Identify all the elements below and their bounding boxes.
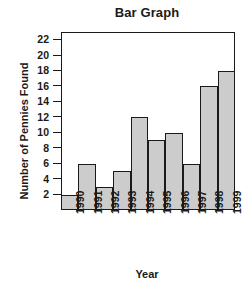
y-tick-label: 16: [19, 81, 49, 91]
y-tick-label: 18: [19, 65, 49, 75]
y-tick-label: 22: [19, 34, 49, 44]
x-tick-label-1996: 1996: [180, 191, 191, 214]
x-tick-label-1998: 1998: [214, 191, 225, 214]
y-tick-label: 6: [19, 158, 49, 168]
y-tick-label: 20: [19, 50, 49, 60]
x-tick-label-1994: 1994: [145, 191, 156, 214]
chart-title: Bar Graph: [62, 5, 232, 21]
y-tick-label: 10: [19, 127, 49, 137]
y-tick-label: 2: [19, 189, 49, 199]
bar-chart: Bar Graph Number of Pennies Found 246810…: [0, 0, 246, 300]
x-tick-label-1990: 1990: [75, 191, 86, 214]
y-tick-label: 8: [19, 143, 49, 153]
x-tick-label-1993: 1993: [127, 191, 138, 214]
bar-1999: [218, 71, 235, 210]
x-tick-label-1999: 1999: [232, 191, 243, 214]
x-tick-label-1997: 1997: [197, 191, 208, 214]
y-tick-label: 14: [19, 96, 49, 106]
x-axis-title: Year: [62, 268, 232, 280]
y-tick-label: 4: [19, 174, 49, 184]
y-tick-label: 12: [19, 112, 49, 122]
x-tick-label-1995: 1995: [162, 191, 173, 214]
x-tick-label-1991: 1991: [93, 191, 104, 214]
x-tick-label-1992: 1992: [110, 191, 121, 214]
bars-layer: [61, 32, 235, 210]
